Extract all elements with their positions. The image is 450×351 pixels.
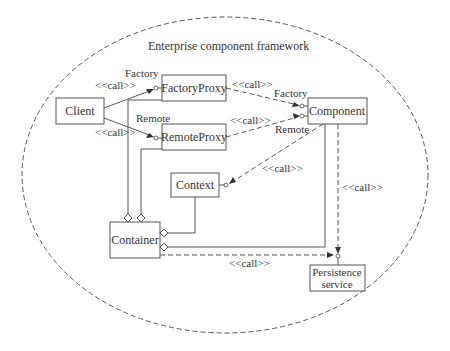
node-container: Container: [110, 222, 160, 258]
node-persistence-label-line2: service: [321, 278, 352, 290]
label-call-client-remote: <<call>>: [95, 126, 136, 138]
label-call-remoteproxy-component: <<call>>: [230, 114, 271, 126]
diamond-icon: [160, 229, 168, 237]
port-icon: [336, 254, 340, 258]
label-factory-right: Factory: [274, 87, 308, 99]
node-client: Client: [56, 98, 104, 124]
node-component-label: Component: [309, 104, 366, 118]
node-client-label: Client: [65, 104, 95, 118]
framework-boundary: [22, 17, 428, 333]
port-icon: [300, 114, 304, 118]
node-remoteproxy: RemoteProxy: [161, 124, 227, 150]
label-remote-right: Remote: [275, 123, 309, 135]
label-call-container-persistence: <<call>>: [229, 257, 270, 269]
arrow-head-icon: [292, 102, 300, 107]
label-call-factoryproxy-component: <<call>>: [232, 78, 273, 90]
node-factoryproxy: FactoryProxy: [161, 75, 226, 101]
label-remote-left: Remote: [136, 112, 170, 124]
node-context-label: Context: [176, 178, 215, 192]
arrow-head-icon: [327, 252, 334, 258]
port-icon: [154, 86, 158, 90]
node-remoteproxy-label: RemoteProxy: [161, 130, 227, 144]
diamond-icon: [137, 214, 145, 222]
node-factoryproxy-label: FactoryProxy: [161, 81, 226, 95]
label-call-component-persistence: <<call>>: [342, 181, 383, 193]
arrow-head-icon: [293, 113, 300, 119]
diamond-icon: [160, 243, 168, 251]
port-icon: [154, 136, 158, 140]
node-component: Component: [308, 98, 367, 124]
framework-title: Enterprise component framework: [148, 39, 309, 53]
component-framework-diagram: Enterprise component framework: [0, 0, 450, 351]
node-container-label: Container: [111, 233, 158, 247]
node-persistence-label-line1: Persistence: [312, 266, 362, 278]
diamond-icon: [124, 214, 132, 222]
arrow-head-icon: [229, 177, 236, 184]
label-call-component-context: <<call>>: [262, 162, 303, 174]
label-factory-left: Factory: [125, 67, 159, 79]
node-persistence-service: Persistence service: [310, 265, 365, 291]
port-icon: [224, 183, 228, 187]
arrow-head-icon: [335, 247, 341, 254]
port-icon: [300, 104, 304, 108]
label-call-client-factory: <<call>>: [95, 79, 136, 91]
node-context: Context: [171, 173, 219, 197]
